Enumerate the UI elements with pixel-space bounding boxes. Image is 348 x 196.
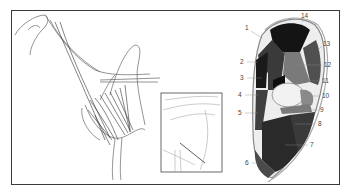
lateral-view-drawing — [15, 15, 160, 180]
label-4: 4 — [238, 91, 242, 98]
label-3: 3 — [240, 74, 244, 81]
label-13: 13 — [323, 40, 331, 47]
label-8: 8 — [318, 120, 322, 127]
label-9: 9 — [320, 106, 324, 113]
cross-section-drawing — [253, 18, 328, 182]
inset-detail — [161, 93, 222, 172]
label-14: 14 — [301, 12, 309, 19]
label-12: 12 — [324, 61, 332, 68]
label-11: 11 — [322, 77, 329, 84]
anatomy-figure: 1 2 3 4 5 6 7 8 9 10 11 12 13 14 — [0, 0, 348, 196]
label-5: 5 — [238, 109, 242, 116]
label-6: 6 — [245, 159, 249, 166]
label-1: 1 — [245, 24, 249, 31]
label-2: 2 — [240, 58, 244, 65]
label-7: 7 — [310, 141, 314, 148]
label-10: 10 — [322, 92, 330, 99]
